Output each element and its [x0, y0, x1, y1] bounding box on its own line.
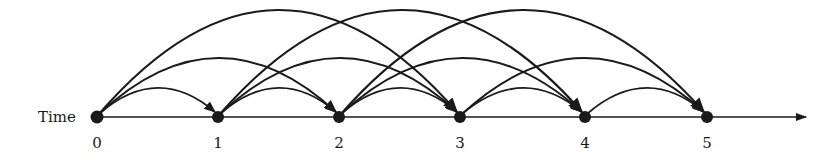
arc-1-to-3 [220, 58, 457, 114]
node-0 [91, 111, 104, 124]
node-4 [579, 111, 591, 123]
transition-arcs [99, 10, 704, 114]
node-label-3: 3 [455, 134, 465, 152]
arc-3-to-5 [462, 58, 704, 114]
arc-2-to-5 [341, 10, 704, 114]
node-1 [212, 111, 224, 123]
axis-label-time: Time [38, 108, 76, 126]
node-2 [333, 111, 345, 123]
time-transition-diagram: 012345 Time [0, 0, 829, 165]
arc-0-to-3 [99, 10, 457, 114]
node-label-5: 5 [702, 134, 712, 152]
node-label-0: 0 [92, 134, 102, 152]
node-5 [701, 111, 713, 123]
node-label-1: 1 [213, 134, 223, 152]
arc-0-to-2 [99, 58, 336, 114]
arc-1-to-2 [220, 88, 336, 114]
node-3 [454, 111, 466, 123]
arc-1-to-4 [220, 10, 582, 114]
node-label-2: 2 [334, 134, 344, 152]
arc-0-to-1 [99, 88, 215, 114]
arc-2-to-4 [341, 58, 582, 114]
node-label-4: 4 [580, 134, 590, 152]
